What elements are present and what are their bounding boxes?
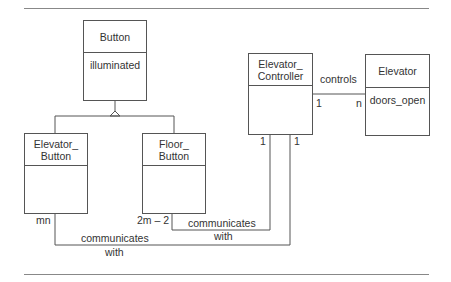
class-elevator-controller[interactable]: Elevator_ Controller: [248, 53, 313, 135]
class-name: Elevator_ Controller: [249, 54, 312, 86]
elevator-comm-mult-source: mn: [36, 214, 51, 226]
class-name: Elevator: [366, 55, 429, 88]
class-attributes: illuminated: [84, 53, 146, 71]
floor-comm-label-line2: with: [214, 230, 233, 242]
class-name-line1: Elevator_: [34, 138, 78, 150]
floor-comm-mult-target: 1: [260, 135, 266, 147]
controls-mult-target: n: [356, 97, 362, 109]
controls-mult-source: 1: [316, 97, 322, 109]
class-attributes: [249, 86, 312, 92]
class-name: Elevator_ Button: [25, 134, 87, 166]
class-name-line1: Elevator_: [258, 58, 302, 70]
generalization-arrow-icon: [110, 111, 120, 116]
class-attributes: [143, 166, 205, 172]
class-name-line2: Button: [159, 150, 189, 162]
floor-comm-label-line1: communicates: [188, 217, 256, 229]
class-attributes: [25, 166, 87, 172]
class-button[interactable]: Button illuminated: [83, 20, 147, 101]
controls-label: controls: [320, 73, 357, 85]
class-name-line2: Button: [41, 150, 71, 162]
elevator-comm-label-line2: with: [105, 246, 124, 258]
class-elevator-button[interactable]: Elevator_ Button: [24, 133, 88, 214]
elevator-comm-mult-target: 1: [294, 135, 300, 147]
class-name: Floor_ Button: [143, 134, 205, 166]
class-name: Button: [84, 21, 146, 53]
class-floor-button[interactable]: Floor_ Button: [142, 133, 206, 214]
floor-comm-mult-source: 2m – 2: [137, 214, 169, 226]
class-name-line1: Floor_: [159, 138, 189, 150]
class-attributes: doors_open: [366, 88, 429, 106]
class-elevator[interactable]: Elevator doors_open: [365, 54, 430, 136]
class-name-line2: Controller: [258, 70, 304, 82]
elevator-comm-label-line1: communicates: [81, 232, 149, 244]
